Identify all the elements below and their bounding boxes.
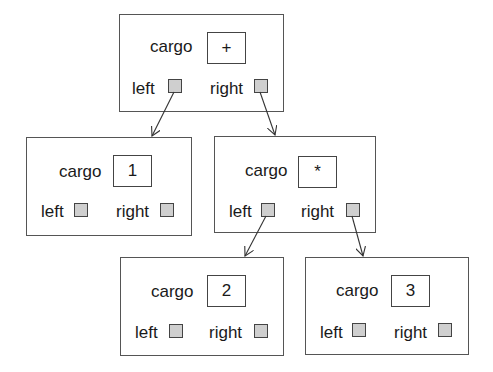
left-pointer-box xyxy=(261,203,275,217)
cargo-label: cargo xyxy=(245,161,288,181)
right-pointer-box xyxy=(254,324,268,338)
cargo-value-box: 1 xyxy=(113,155,152,187)
right-label: right xyxy=(301,202,334,222)
right-label: right xyxy=(210,79,243,99)
tree-node-3: cargo 3 left right xyxy=(305,257,469,355)
right-label: right xyxy=(394,323,427,343)
right-pointer-box xyxy=(254,79,268,93)
cargo-value: + xyxy=(222,38,232,58)
right-pointer-box xyxy=(438,323,452,337)
cargo-value: 1 xyxy=(128,161,137,181)
left-pointer-box xyxy=(74,203,88,217)
tree-node-2: cargo 2 left right xyxy=(120,257,284,356)
cargo-value-box: + xyxy=(207,32,246,64)
cargo-value-box: * xyxy=(298,156,337,188)
cargo-label: cargo xyxy=(150,37,193,57)
cargo-value: 2 xyxy=(222,281,231,301)
left-pointer-box xyxy=(168,79,182,93)
left-label: left xyxy=(229,202,252,222)
right-pointer-box xyxy=(160,203,174,217)
cargo-label: cargo xyxy=(59,162,102,182)
tree-node-root: cargo + left right xyxy=(119,14,284,112)
cargo-label: cargo xyxy=(151,282,194,302)
tree-node-multiply: cargo * left right xyxy=(214,136,376,233)
cargo-value: 3 xyxy=(406,281,415,301)
left-label: left xyxy=(135,323,158,343)
left-label: left xyxy=(320,323,343,343)
left-label: left xyxy=(41,202,64,222)
left-label: left xyxy=(132,79,155,99)
left-pointer-box xyxy=(169,324,183,338)
cargo-value-box: 2 xyxy=(207,275,246,307)
tree-node-1: cargo 1 left right xyxy=(26,137,192,236)
right-label: right xyxy=(116,202,149,222)
right-pointer-box xyxy=(346,203,360,217)
left-pointer-box xyxy=(352,323,366,337)
cargo-label: cargo xyxy=(336,281,379,301)
cargo-value: * xyxy=(314,162,321,182)
right-label: right xyxy=(209,323,242,343)
cargo-value-box: 3 xyxy=(391,275,430,307)
